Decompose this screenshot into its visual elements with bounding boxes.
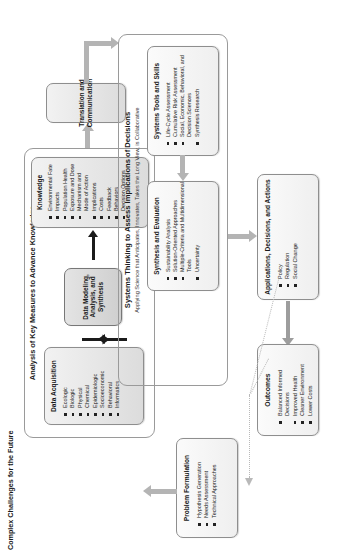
- list-item: Environmental Fate: [47, 158, 54, 211]
- list-item: Cumulative Risk Assessment: [172, 47, 179, 137]
- arrow-modeling-to-acquisition-head: [98, 335, 105, 345]
- arrow-translation-elbow-horizontal: [84, 41, 89, 83]
- synthesis-evaluation-title: Synthesis and Evaluation: [153, 185, 161, 287]
- list-item: Exposure and Dose: [69, 158, 76, 211]
- list-item: Social Change: [292, 175, 299, 279]
- list-item: Improved Health: [292, 345, 299, 416]
- knowledge-list: Environmental Fate Impacts Population He…: [47, 158, 127, 222]
- outcomes-list: Balanced Informed Decisions Improved Hea…: [277, 345, 314, 427]
- systems-tools-list: Life-Cycle Assessment Cumulative Risk As…: [165, 47, 201, 148]
- synthesis-evaluation-box[interactable]: Synthesis and Evaluation Sustainability …: [147, 181, 219, 291]
- arrow-problem-to-acquisition-shaft: [150, 489, 177, 494]
- systems-thinking-section-title: Systems Thinking to Assess Implications …: [123, 38, 132, 382]
- systems-tools-title: Systems Tools and Skills: [153, 50, 161, 152]
- feedback-dotted-horizontal: [249, 396, 250, 478]
- list-item: Technical Approaches: [211, 439, 218, 518]
- list-item: Biologic: [69, 348, 76, 408]
- list-item: Mechanism and Mode of Action: [76, 158, 90, 211]
- list-item: Implications: [91, 158, 98, 211]
- data-acquisition-list: Ecologic Biologic Physical Chemical Epid…: [62, 348, 122, 419]
- arrow-translation-elbow-vertical: [84, 41, 112, 46]
- diagram-canvas: Complex Challenges for the Future Analys…: [0, 0, 342, 556]
- list-item: Solution-Oriented Approaches: [172, 182, 179, 272]
- applications-title: Applications, Decisions, and Actions: [264, 179, 272, 295]
- arrow-modeling-to-knowledge-head: [88, 230, 98, 237]
- list-item: Costs: [98, 158, 105, 211]
- list-item: Epidemiologic: [92, 348, 99, 408]
- list-item: Balanced Informed Decisions: [277, 345, 291, 416]
- list-item: Uncertainty: [194, 182, 201, 272]
- list-item: Physical: [77, 348, 84, 408]
- list-item: Regulation: [284, 175, 291, 279]
- systems-thinking-section-subtitle: Applying Science that Anticipates, Innov…: [134, 38, 140, 382]
- feedback-dotted-head: [245, 478, 253, 486]
- translation-box[interactable]: Translation and Communication: [46, 83, 126, 123]
- list-item: Sustainability Analysis: [165, 182, 172, 272]
- list-item: Feedback: [106, 158, 113, 211]
- list-item: Needs Assessment: [203, 439, 210, 518]
- applications-list: Policy Regulation Social Change: [277, 175, 299, 290]
- arrow-tools-to-synthesis-shaft: [180, 155, 185, 173]
- data-acquisition-title: Data Acquisition: [50, 351, 58, 421]
- arrow-synthesis-to-applications-shaft: [228, 234, 250, 239]
- data-modeling-title: Data Modeling, Analysis, and Synthesis: [82, 269, 105, 325]
- arrow-problem-to-acquisition-head: [143, 486, 151, 498]
- knowledge-title: Knowledge: [36, 161, 44, 224]
- list-item: Cleaner Environment: [299, 345, 306, 416]
- arrow-modeling-to-knowledge-shaft: [92, 236, 95, 260]
- arrow-applications-to-outcomes-shaft: [286, 301, 290, 338]
- list-item: Life-Cycle Assessment: [165, 47, 172, 137]
- list-item: Social, Economic, Behavioral, and Decisi…: [179, 47, 193, 137]
- list-item: Population Health: [62, 158, 69, 211]
- problem-formulation-title: Problem Formulation: [183, 443, 191, 533]
- problem-formulation-box[interactable]: Problem Formulation Hypothesis Generatio…: [176, 438, 238, 538]
- list-item: Behavioral: [107, 348, 114, 408]
- arrow-synthesis-to-applications-head: [249, 231, 257, 243]
- list-item: Multiple-Criteria and Multidimensional T…: [179, 182, 193, 272]
- list-item: Impacts: [54, 158, 61, 211]
- systems-tools-box[interactable]: Systems Tools and Skills Life-Cycle Asse…: [147, 46, 219, 156]
- list-item: Hypothesis Generation: [196, 439, 203, 518]
- list-item: Lower Costs: [307, 345, 314, 416]
- data-modeling-box[interactable]: Data Modeling, Analysis, and Synthesis: [64, 268, 122, 326]
- list-item: Socioeconomic: [99, 348, 106, 408]
- list-item: Policy: [277, 175, 284, 279]
- list-item: Chemical: [84, 348, 91, 408]
- translation-title: Translation and Communication: [78, 76, 93, 130]
- diagram-rotation-wrapper: Complex Challenges for the Future Analys…: [0, 0, 342, 556]
- list-item: Ecologic: [62, 348, 69, 408]
- outcomes-box[interactable]: Outcomes Balanced Informed Decisions Imp…: [257, 344, 319, 436]
- diagram-title: Complex Challenges for the Future: [6, 320, 15, 550]
- arrow-tools-to-synthesis-head: [177, 173, 189, 181]
- synthesis-evaluation-list: Sustainability Analysis Solution-Oriente…: [165, 182, 201, 283]
- arrow-knowledge-to-translation-shaft: [85, 129, 90, 148]
- problem-formulation-list: Hypothesis Generation Needs Assessment T…: [196, 439, 218, 529]
- list-item: Synthesis Research: [194, 47, 201, 137]
- applications-box[interactable]: Applications, Decisions, and Actions Pol…: [257, 174, 319, 300]
